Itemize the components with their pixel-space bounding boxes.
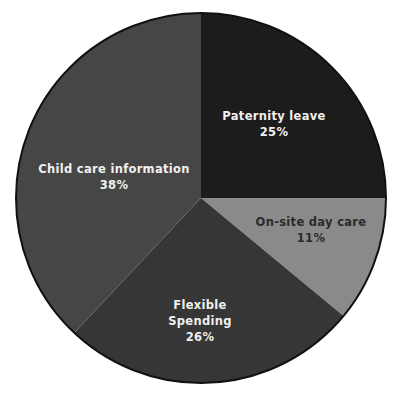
slice-label-flexible-spending: Spending xyxy=(168,314,232,328)
slice-label-flexible-spending: Flexible xyxy=(173,298,226,312)
slice-label-child-care-information: Child care information xyxy=(38,162,189,176)
slice-value-child-care-information: 38% xyxy=(100,178,129,192)
slice-label-on-site-day-care: On-site day care xyxy=(256,215,367,229)
slice-value-flexible-spending: 26% xyxy=(186,330,215,344)
slice-value-on-site-day-care: 11% xyxy=(297,231,326,245)
pie-slice-paternity-leave xyxy=(201,13,386,198)
slice-value-paternity-leave: 25% xyxy=(260,125,289,139)
pie-chart: Paternity leave25%On-site day care11%Fle… xyxy=(0,0,400,401)
slice-label-paternity-leave: Paternity leave xyxy=(222,109,325,123)
